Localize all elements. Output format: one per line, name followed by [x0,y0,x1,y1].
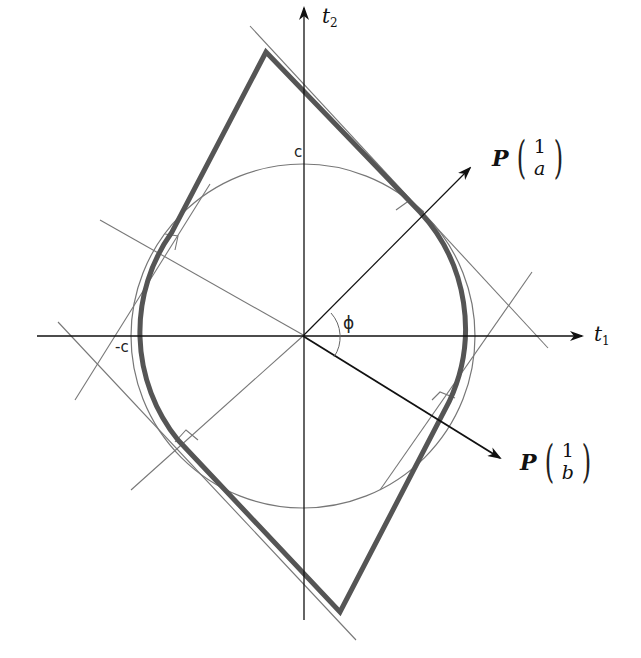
vector-label-a: P ( 1 a ) [492,136,567,180]
column-vector-a: 1 a [534,136,546,180]
diagram-canvas [0,0,641,658]
t1-axis-label: t1 [594,322,610,348]
right-paren: ) [582,440,591,484]
vector-label-b: P ( 1 b ) [520,440,595,484]
left-paren: ( [516,136,525,180]
column-vector-b: 1 b [562,440,574,484]
angle-phi-label: ϕ [343,313,354,333]
left-paren: ( [544,440,553,484]
convex-outline [140,52,466,612]
angle-arc [331,313,340,357]
right-angle-markers [165,200,455,442]
right-paren: ) [554,136,563,180]
neg-c-label: -c [115,338,129,356]
c-label: c [294,143,302,161]
direction-b-arrow [303,336,500,458]
t2-axis-label: t2 [322,4,338,30]
